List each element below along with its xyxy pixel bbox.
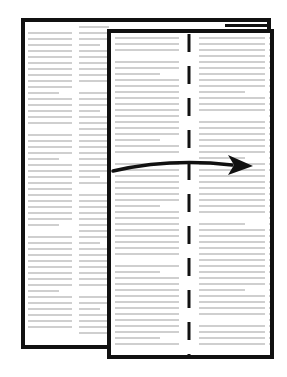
fold-arrow-icon xyxy=(113,155,253,175)
fold-diagram-overlay xyxy=(0,0,287,377)
